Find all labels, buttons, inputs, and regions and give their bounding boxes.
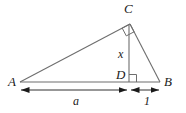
side-ac xyxy=(20,24,130,82)
vertex-label-b: B xyxy=(164,74,172,89)
vertex-label-a: A xyxy=(7,74,16,89)
measure-label-segment-db: 1 xyxy=(144,94,150,108)
right-angle-at-d-marker xyxy=(129,75,137,83)
vertex-label-c: C xyxy=(124,1,133,16)
right-angle-at-c-marker xyxy=(122,24,134,36)
geometry-canvas: A B C D x a 1 xyxy=(0,0,186,113)
measure-label-altitude: x xyxy=(117,47,124,61)
geometry-figure: A B C D x a 1 xyxy=(0,0,186,113)
vertex-label-d: D xyxy=(115,67,126,82)
measure-label-segment-ad: a xyxy=(73,94,79,108)
side-cb xyxy=(130,24,160,82)
